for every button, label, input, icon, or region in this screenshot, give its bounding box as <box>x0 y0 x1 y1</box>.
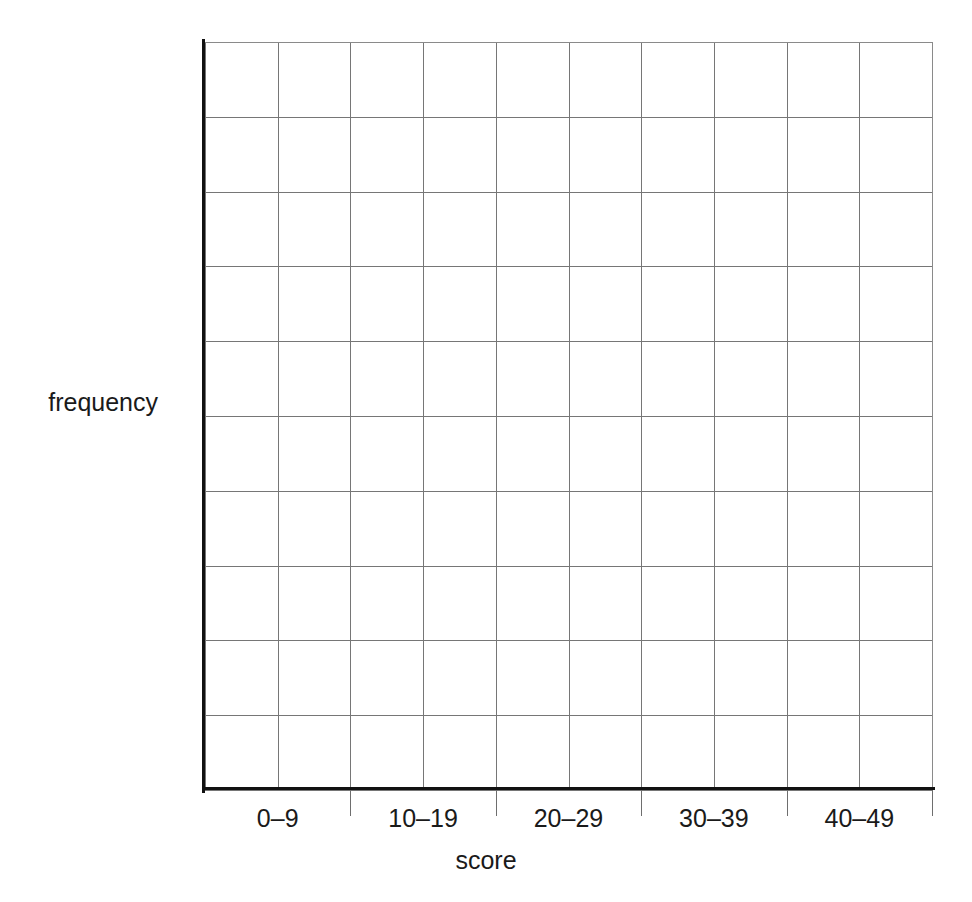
y-axis-line <box>202 39 205 793</box>
x-axis-tick-label: 20–29 <box>496 803 641 833</box>
grid-line-horizontal <box>205 715 932 716</box>
grid-line-horizontal <box>205 266 932 267</box>
plot-area <box>205 42 932 790</box>
grid-line-horizontal <box>205 416 932 417</box>
grid-line-horizontal <box>205 341 932 342</box>
y-axis-title: frequency <box>0 387 180 417</box>
chart-canvas: frequency score 0–910–1920–2930–3940–49 <box>0 0 972 902</box>
grid-line-horizontal <box>205 640 932 641</box>
grid-line-vertical <box>932 42 933 790</box>
x-axis-tick-label: 0–9 <box>205 803 350 833</box>
grid-line-horizontal <box>205 117 932 118</box>
x-axis-tick-label: 30–39 <box>641 803 786 833</box>
x-axis-line <box>202 787 935 790</box>
x-axis-title: score <box>0 845 972 875</box>
grid-line-horizontal <box>205 790 932 791</box>
x-axis-tick-label: 10–19 <box>350 803 495 833</box>
grid-line-horizontal <box>205 491 932 492</box>
x-axis-tick-label: 40–49 <box>787 803 932 833</box>
grid-line-horizontal <box>205 192 932 193</box>
x-axis-tick <box>932 790 933 816</box>
grid-line-horizontal <box>205 566 932 567</box>
grid-line-horizontal <box>205 42 932 43</box>
